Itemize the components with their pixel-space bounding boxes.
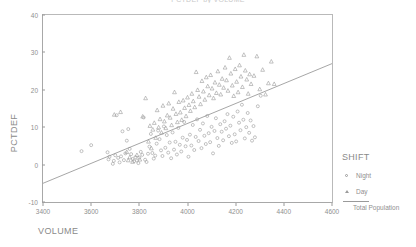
data-point-day [173, 90, 177, 94]
data-point-night [170, 157, 173, 160]
data-point-night [155, 142, 158, 145]
data-point-day [255, 54, 259, 58]
data-point-night [191, 123, 194, 126]
data-point-day [196, 88, 200, 92]
data-point-night [194, 135, 197, 138]
data-point-night [186, 138, 189, 141]
data-point-night [139, 150, 142, 153]
data-point-night [165, 134, 168, 137]
data-point-day [235, 80, 239, 84]
x-tick-mark [43, 203, 44, 206]
data-point-night [229, 124, 232, 127]
data-point-night [106, 151, 109, 154]
data-point-day [197, 95, 201, 99]
data-point-day [186, 95, 190, 99]
legend-item-night[interactable]: Night [342, 169, 416, 182]
data-point-day [222, 86, 226, 90]
data-point-night [157, 129, 160, 132]
data-point-day [177, 100, 181, 104]
data-point-night [199, 128, 202, 131]
regression-line [43, 64, 332, 184]
y-tick-label: 40 [31, 12, 38, 19]
data-point-night [210, 125, 213, 128]
data-point-day [243, 68, 247, 72]
y-tick-label: 0 [34, 161, 38, 168]
data-point-day [230, 83, 234, 87]
data-point-night [214, 117, 217, 120]
data-point-night [112, 159, 115, 162]
data-point-night [212, 152, 215, 155]
legend-item-total-population[interactable]: Total Population [342, 201, 416, 211]
data-point-night [174, 140, 177, 143]
data-point-night [230, 141, 233, 144]
x-tick-mark [332, 203, 333, 206]
y-tick-label: 10 [31, 124, 38, 131]
data-point-night [203, 134, 206, 137]
x-tick-mark [139, 203, 140, 206]
data-point-day [223, 65, 227, 69]
data-point-night [200, 147, 203, 150]
y-tick-mark [42, 164, 45, 165]
data-point-day [161, 104, 165, 108]
data-point-day [219, 92, 223, 96]
chart-title: PCTDEF by VOLUME [0, 0, 416, 3]
data-point-day [233, 67, 237, 71]
data-point-night [226, 113, 229, 116]
x-axis-ticks: 3400360038004000420044004600 [42, 203, 333, 223]
data-point-night [197, 140, 200, 143]
x-tick-label: 4600 [325, 208, 339, 215]
data-point-day [178, 110, 182, 114]
data-point-night [130, 153, 133, 156]
data-point-day [181, 98, 185, 102]
data-point-day [190, 92, 194, 96]
data-point-day [241, 85, 245, 89]
data-point-night [201, 122, 204, 125]
y-axis-ticks: -10010203040 [0, 14, 38, 203]
data-point-day [171, 107, 175, 111]
x-tick-mark [187, 203, 188, 206]
y-tick-label: -10 [29, 199, 38, 206]
data-point-day [175, 120, 179, 124]
data-point-night [171, 131, 174, 134]
data-point-day [199, 102, 203, 106]
data-point-day [170, 123, 174, 127]
legend-item-day[interactable]: Day [342, 185, 416, 198]
y-tick-mark [42, 202, 45, 203]
data-point-night [122, 159, 125, 162]
data-point-night [249, 119, 252, 122]
legend-label-total-population: Total Population [353, 204, 416, 211]
data-point-night [137, 162, 140, 165]
data-point-day [191, 99, 195, 103]
data-point-night [152, 157, 155, 160]
data-point-day [261, 68, 265, 72]
data-point-day [210, 86, 214, 90]
regression-line-icon [343, 201, 369, 202]
data-point-day [144, 96, 148, 100]
data-point-day [206, 84, 210, 88]
data-point-day [151, 128, 155, 132]
y-tick-label: 30 [31, 49, 38, 56]
data-point-day [248, 72, 252, 76]
data-point-day [267, 81, 271, 85]
data-point-night [117, 156, 120, 159]
data-point-day [174, 112, 178, 116]
data-point-night [147, 152, 150, 155]
data-point-day [228, 56, 232, 60]
data-point-night [90, 144, 93, 147]
data-point-day [269, 59, 273, 63]
data-point-night [225, 127, 228, 130]
data-point-night [151, 152, 154, 155]
data-point-night [80, 150, 83, 153]
data-point-night [164, 146, 167, 149]
data-point-night [243, 137, 246, 140]
data-point-day [225, 78, 229, 82]
data-point-day [155, 108, 159, 112]
data-point-night [120, 155, 123, 158]
data-point-night [219, 123, 222, 126]
data-point-night [141, 153, 144, 156]
data-point-night [213, 129, 216, 132]
data-point-day [148, 124, 152, 128]
data-point-night [181, 136, 184, 139]
data-point-night [227, 135, 230, 138]
data-point-night [259, 94, 262, 97]
